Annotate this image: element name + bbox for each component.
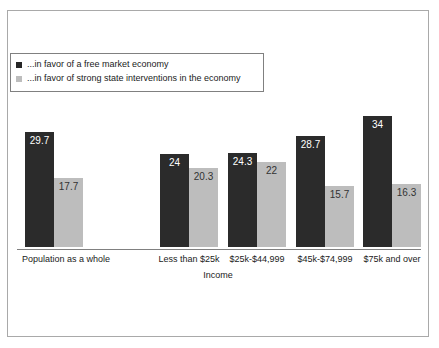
bar-series2-cat4[interactable]: 16.3 (392, 184, 421, 247)
bar-series2-cat0[interactable]: 17.7 (54, 178, 83, 247)
bar-value-label: 29.7 (25, 135, 54, 147)
bar-series2-cat1[interactable]: 20.3 (189, 168, 218, 247)
bar-value-label: 15.7 (325, 189, 354, 201)
x-axis-line (17, 249, 421, 250)
bar-value-label: 28.7 (296, 139, 325, 151)
legend-item-label: ...in favor of strong state intervention… (27, 73, 241, 84)
chart-frame: 29.7 17.7 Population as a whole 24 20.3 … (7, 10, 429, 337)
legend-swatch-icon (16, 76, 22, 82)
x-tick-label-4: $75k and over (352, 254, 432, 264)
bar-series2-cat3[interactable]: 15.7 (325, 186, 354, 247)
bar-series1-cat0[interactable]: 29.7 (25, 132, 54, 247)
x-axis-title: Income (8, 270, 428, 280)
bar-value-label: 17.7 (54, 181, 83, 193)
bar-series1-cat4[interactable]: 34 (363, 116, 392, 247)
bar-series1-cat2[interactable]: 24.3 (228, 153, 257, 247)
legend-item-state-intervention[interactable]: ...in favor of strong state intervention… (16, 72, 258, 85)
bar-value-label: 24.3 (228, 156, 257, 168)
legend-item-free-market[interactable]: ...in favor of a free market economy (16, 58, 258, 71)
chart-legend: ...in favor of a free market economy ...… (10, 53, 264, 92)
bar-value-label: 16.3 (392, 187, 421, 199)
bar-series1-cat1[interactable]: 24 (160, 154, 189, 247)
bar-value-label: 20.3 (189, 171, 218, 183)
bar-value-label: 22 (257, 165, 286, 177)
legend-item-label: ...in favor of a free market economy (27, 59, 169, 70)
bar-value-label: 34 (363, 119, 392, 131)
legend-swatch-icon (16, 62, 22, 68)
x-tick-label-0: Population as a whole (6, 254, 126, 264)
bar-value-label: 24 (160, 157, 189, 169)
bar-series1-cat3[interactable]: 28.7 (296, 136, 325, 247)
bar-series2-cat2[interactable]: 22 (257, 162, 286, 247)
